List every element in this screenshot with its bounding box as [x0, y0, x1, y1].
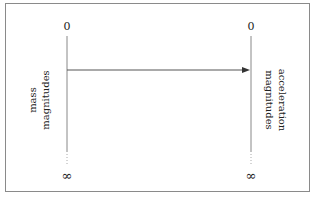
svg-text:acceleration: acceleration — [277, 69, 288, 132]
right-axis-label: acceleration magnitudes — [264, 69, 288, 132]
left-axis-label: mass magnitudes — [27, 70, 51, 129]
right-axis-bottom-value: ∞ — [246, 168, 257, 183]
mapping-diagram: 0 ∞ mass magnitudes 0 ∞ acceleration mag… — [0, 0, 315, 198]
left-axis-bottom-value: ∞ — [62, 168, 73, 183]
arrow-head-icon — [242, 67, 250, 73]
svg-text:mass: mass — [27, 87, 38, 113]
left-axis-top-value: 0 — [64, 20, 71, 33]
svg-text:magnitudes: magnitudes — [40, 70, 51, 129]
right-axis-top-value: 0 — [248, 20, 255, 33]
svg-text:magnitudes: magnitudes — [264, 70, 275, 129]
